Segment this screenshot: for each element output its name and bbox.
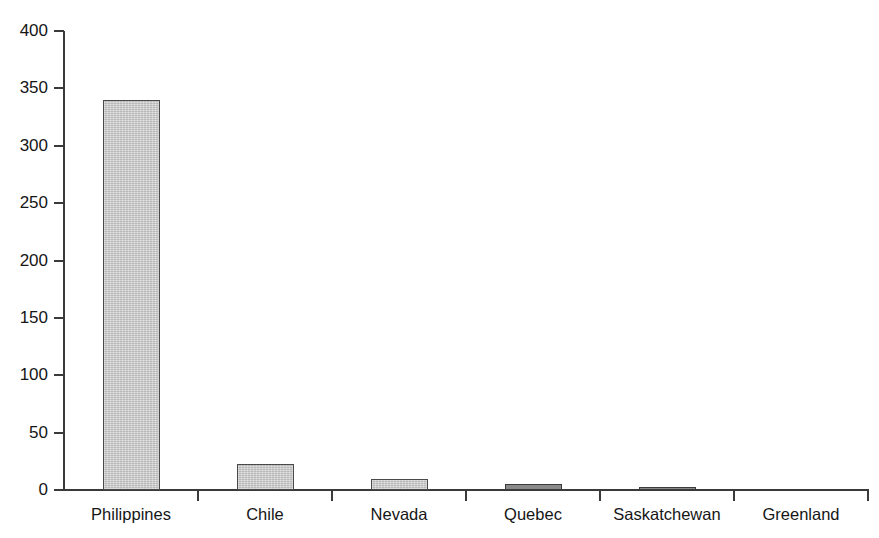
x-tick [867, 491, 869, 501]
y-tick-label: 200 [0, 252, 48, 269]
y-tick-label: 0 [0, 481, 48, 498]
bar-chile [237, 464, 294, 490]
x-tick [331, 491, 333, 501]
bar-saskatchewan [639, 487, 696, 490]
y-tick-200 [54, 260, 64, 262]
x-label-saskatchewan: Saskatchewan [600, 505, 734, 523]
y-tick-150 [54, 317, 64, 319]
x-tick [599, 491, 601, 501]
y-tick-label: 300 [0, 137, 48, 154]
x-label-nevada: Nevada [332, 505, 466, 523]
y-tick-label: 150 [0, 309, 48, 326]
x-label-chile: Chile [198, 505, 332, 523]
x-label-greenland: Greenland [734, 505, 868, 523]
x-tick [733, 491, 735, 501]
bar-nevada [371, 479, 428, 490]
x-tick [197, 491, 199, 501]
y-tick-0 [54, 489, 72, 491]
y-tick-250 [54, 202, 64, 204]
y-tick-label: 100 [0, 366, 48, 383]
y-tick-50 [54, 432, 64, 434]
bar-chart: 050100150200250300350400 PhilippinesChil… [0, 0, 879, 538]
x-label-quebec: Quebec [466, 505, 600, 523]
bar-quebec [505, 484, 562, 490]
y-tick-label: 250 [0, 194, 48, 211]
y-tick-100 [54, 374, 64, 376]
y-tick-300 [54, 145, 64, 147]
y-tick-350 [54, 87, 64, 89]
y-tick-label: 400 [0, 22, 48, 39]
y-tick-label: 50 [0, 424, 48, 441]
y-tick-label: 350 [0, 79, 48, 96]
x-tick [465, 491, 467, 501]
bar-philippines [103, 100, 160, 490]
y-tick-400 [54, 30, 64, 32]
x-label-philippines: Philippines [64, 505, 198, 523]
